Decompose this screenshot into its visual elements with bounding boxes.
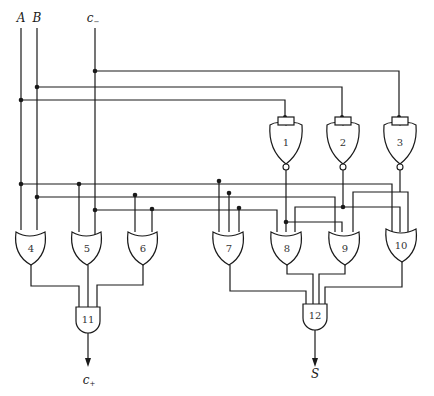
- gate-11-label: 11: [82, 314, 95, 325]
- gate-4-label: 4: [28, 243, 34, 254]
- gate-7-or: 7: [213, 232, 244, 265]
- junction-dot: [35, 85, 40, 90]
- logic-circuit-diagram: A B c− 1: [0, 0, 434, 396]
- junction-dot: [19, 98, 24, 103]
- gate-2-nor: 2: [327, 117, 359, 170]
- wire-c-minus-bus: [95, 210, 277, 232]
- wire-gate7-to-gate12: [230, 265, 306, 304]
- gate-6-label: 6: [140, 243, 146, 254]
- wire-gate2-bus: [295, 207, 400, 232]
- wire-a-to-gate1: [21, 100, 285, 117]
- gate-6-or: 6: [128, 232, 158, 265]
- gate-2-label: 2: [340, 137, 346, 148]
- wire-gate10-to-gate12: [325, 262, 402, 304]
- input-label-a: A: [16, 11, 26, 25]
- gate-1-label: 1: [283, 137, 289, 148]
- arrow-down-icon: [85, 358, 91, 367]
- gate-8-label: 8: [284, 243, 290, 254]
- gate-9-or: 9: [329, 232, 360, 265]
- junction-dot: [19, 182, 24, 187]
- output-label-c-plus: c+: [83, 373, 96, 388]
- gate-12-label: 12: [309, 310, 322, 321]
- junction-dot: [284, 220, 289, 225]
- gate-11-and: 11: [76, 307, 100, 333]
- arrow-down-icon: [312, 358, 318, 367]
- gate-3-nor: 3: [384, 117, 416, 170]
- wire-gate6-to-gate11: [97, 265, 143, 307]
- wire-gate9-to-gate12: [319, 265, 345, 304]
- wire-b-bus: [37, 197, 335, 232]
- wire-b-to-gate2: [37, 87, 342, 117]
- junction-dot: [35, 195, 40, 200]
- gate-5-label: 5: [84, 243, 90, 254]
- gate-4-or: 4: [16, 232, 46, 265]
- output-label-s: S: [311, 367, 319, 381]
- gate-3-label: 3: [397, 137, 403, 148]
- gate-10-label: 10: [395, 240, 408, 251]
- input-label-b: B: [32, 11, 42, 25]
- gate-7-label: 7: [226, 243, 232, 254]
- junction-dot: [93, 208, 98, 213]
- junction-dot: [341, 205, 346, 210]
- junction-dot: [93, 69, 98, 74]
- gate-12-and: 12: [303, 304, 327, 330]
- gate-1-nor: 1: [270, 117, 302, 170]
- wire-c-minus-to-gate3: [95, 71, 399, 117]
- gate-9-label: 9: [342, 243, 348, 254]
- gate-8-or: 8: [271, 232, 302, 265]
- wire-gate8-to-gate12: [287, 265, 313, 304]
- gate-5-or: 5: [72, 232, 102, 265]
- input-label-c-minus: c−: [87, 11, 100, 26]
- wire-a-bus: [21, 184, 392, 232]
- wire-gate4-to-gate11: [31, 265, 79, 307]
- gate-10-or: 10: [386, 229, 417, 262]
